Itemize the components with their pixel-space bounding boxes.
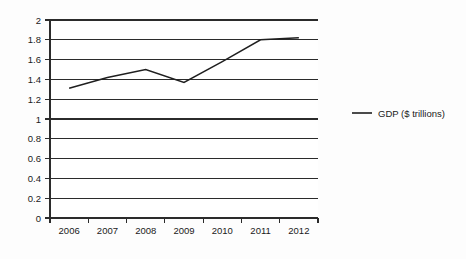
ytick-label-1.6: 1.6: [28, 54, 41, 65]
ytick-label-1.8: 1.8: [28, 34, 41, 45]
xtick-label-2010: 2010: [212, 225, 233, 236]
ytick-label-0.2: 0.2: [28, 193, 41, 204]
xtick-label-2007: 2007: [97, 225, 118, 236]
legend-label-gdp: GDP ($ trillions): [378, 108, 445, 119]
ytick-label-1.0: 1: [36, 114, 41, 125]
ytick-label-0.4: 0.4: [28, 173, 41, 184]
ytick-label-0: 0: [36, 213, 41, 224]
xtick-label-2011: 2011: [250, 225, 270, 236]
xtick-label-2009: 2009: [173, 225, 194, 236]
gdp-line-chart: 2 1.8 1.6 1.4 1.2 1 0.8 0.6 0.4 0.2 0 20…: [0, 0, 466, 259]
ytick-label-2.0: 2: [36, 15, 41, 26]
xtick-label-2012: 2012: [288, 225, 309, 236]
xtick-label-2008: 2008: [135, 225, 156, 236]
xtick-label-2006: 2006: [59, 225, 80, 236]
ytick-label-1.4: 1.4: [28, 74, 41, 85]
ytick-label-0.8: 0.8: [28, 133, 41, 144]
ytick-label-1.2: 1.2: [28, 94, 41, 105]
ytick-label-0.6: 0.6: [28, 153, 41, 164]
